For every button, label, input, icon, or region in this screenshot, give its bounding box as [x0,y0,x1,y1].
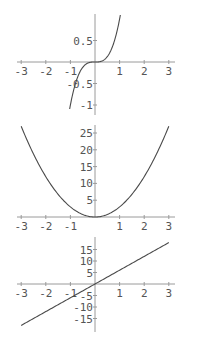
x-tick-label: 1 [116,287,123,300]
x-tick-label: -2 [39,287,52,300]
y-tick-label: -15 [73,313,93,326]
x-tick-label: 3 [165,220,172,233]
x-tick-label: 3 [165,65,172,78]
plots-canvas: -3-2-11230.5-0.5-1-3-2-1123252015105-3-2… [0,0,202,346]
y-tick-label: 20 [80,144,93,157]
x-tick-label: -3 [15,65,28,78]
x-tick-label: -1 [64,220,77,233]
y-tick-label: 5 [86,267,93,280]
x-tick-label: 1 [116,65,123,78]
y-tick-label: 0.5 [73,35,93,48]
y-tick-label: 25 [80,127,93,140]
x-tick-label: 2 [141,220,148,233]
y-tick-label: 5 [86,194,93,207]
x-tick-label: 2 [141,287,148,300]
plot-2: -3-2-1123252015105 [15,125,175,233]
y-tick-label: 10 [80,177,93,190]
y-tick-label: 15 [80,161,93,174]
x-tick-label: 2 [141,65,148,78]
x-tick-label: 1 [116,220,123,233]
x-tick-label: 3 [165,287,172,300]
plot-3: -3-2-112315105-5-10-15 [15,237,175,332]
x-tick-label: -2 [39,220,52,233]
x-tick-label: -3 [15,287,28,300]
x-tick-label: -2 [39,65,52,78]
x-tick-label: -3 [15,220,28,233]
y-tick-label: -1 [80,99,93,112]
plot-1: -3-2-11230.5-0.5-1 [15,14,175,115]
y-tick-label: -0.5 [67,78,94,91]
x-tick-label: -1 [64,65,77,78]
